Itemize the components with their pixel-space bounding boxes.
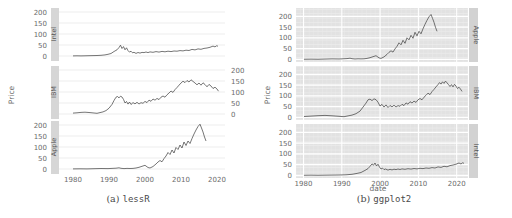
x-axis-title: date: [370, 184, 387, 193]
lessR-chart: Price 200 150 100 50 0 Intel: [0, 0, 256, 190]
series-line-ibm: [73, 80, 219, 114]
y-tick-100-ibm: 100: [231, 89, 244, 97]
figure-pair: Price 200 150 100 50 0 Intel: [0, 0, 512, 218]
x-tick-2000: 2000: [136, 176, 154, 184]
facet-ibm: 200 150 100 50 0 IBM: [279, 66, 480, 122]
series-line-intel: [73, 45, 218, 56]
caption-a-name: lessR: [123, 194, 150, 204]
y-tick-0-intel: 0: [43, 53, 47, 61]
ggplot2-chart: Price 200 150 100: [256, 0, 512, 190]
figure-panel-b: Price 200 150 100: [256, 0, 512, 218]
y-tick-150-intel: 150: [279, 140, 292, 148]
strip-label-ibm: IBM: [50, 86, 58, 98]
gridlines-apple: [59, 125, 225, 169]
strip-label-ibm: IBM: [472, 87, 480, 99]
strip-label-intel: Intel: [472, 144, 480, 159]
strip-label-apple: Apple: [472, 26, 480, 45]
y-tick-100-intel: 100: [279, 150, 292, 158]
y-tick-200-ibm: 200: [231, 67, 244, 75]
facet-apple: 200 150 100 50 0 Apple: [34, 121, 225, 174]
gridlines-ibm: [59, 70, 225, 114]
x-tick-1980: 1980: [64, 176, 82, 184]
y-tick-100-apple: 100: [279, 34, 292, 42]
caption-b-name: ggplot2: [373, 194, 411, 204]
x-tick-2010: 2010: [172, 176, 190, 184]
y-tick-150-ibm: 150: [231, 78, 244, 86]
y-tick-100-intel: 100: [34, 31, 47, 39]
y-tick-0-apple: 0: [43, 166, 47, 174]
caption-a: (a) lessR: [0, 193, 256, 204]
y-axis-title: Price: [263, 85, 272, 104]
y-tick-50-apple: 50: [38, 155, 47, 163]
y-tick-50-apple: 50: [283, 45, 292, 53]
x-axis-a: 1980 1990 2000 2010 2020: [64, 176, 226, 184]
facet-intel: 200 150 100 50 0 Intel: [34, 8, 225, 61]
y-tick-200-apple: 200: [34, 122, 47, 130]
facet-intel: 200 150 100 50 0 Intel: [279, 124, 480, 180]
series-line-apple: [73, 124, 206, 169]
x-tick-1990: 1990: [100, 176, 118, 184]
y-tick-100-ibm: 100: [279, 92, 292, 100]
strip-label-apple: Apple: [50, 138, 58, 157]
facet-apple: 200 150 100 50 0 Apple: [279, 8, 480, 64]
y-tick-0-apple: 0: [288, 56, 292, 64]
y-tick-200-intel: 200: [34, 9, 47, 17]
y-tick-50-ibm: 50: [283, 103, 292, 111]
y-tick-0-ibm: 0: [288, 114, 292, 122]
figure-panel-a: Price 200 150 100 50 0 Intel: [0, 0, 256, 218]
strip-label-intel: Intel: [50, 27, 58, 42]
y-tick-50-ibm: 50: [231, 100, 240, 108]
y-tick-200-intel: 200: [279, 129, 292, 137]
y-tick-200-ibm: 200: [279, 71, 292, 79]
x-tick-2020: 2020: [208, 176, 226, 184]
y-tick-100-apple: 100: [34, 144, 47, 152]
caption-a-prefix: (a): [106, 193, 119, 204]
y-tick-150-intel: 150: [34, 20, 47, 28]
y-tick-50-intel: 50: [38, 42, 47, 50]
facet-ibm: 200 150 100 50 0 IBM: [50, 66, 245, 119]
y-tick-150-apple: 150: [279, 24, 292, 32]
y-tick-50-intel: 50: [283, 161, 292, 169]
y-tick-0-ibm: 0: [231, 111, 235, 119]
y-axis-title: Price: [7, 85, 16, 104]
y-tick-150-apple: 150: [34, 133, 47, 141]
y-tick-200-apple: 200: [279, 13, 292, 21]
y-tick-150-ibm: 150: [279, 82, 292, 90]
